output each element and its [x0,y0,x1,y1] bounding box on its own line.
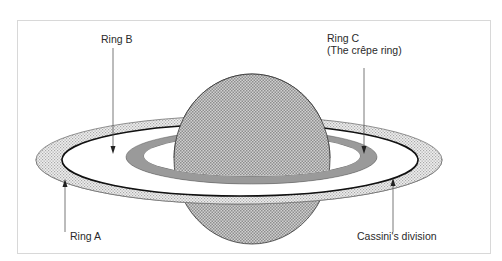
ring-c-label-line1: Ring C [327,32,359,44]
diagram-canvas [0,0,502,261]
ring-a-label: Ring A [70,230,101,242]
ring-b-label: Ring B [101,33,133,45]
cassini-label: Cassini's division [357,230,437,242]
ring-c-label-line2: (The crêpe ring) [327,44,402,56]
saturn-diagram: Ring B Ring C (The crêpe ring) Ring A Ca… [0,0,502,261]
